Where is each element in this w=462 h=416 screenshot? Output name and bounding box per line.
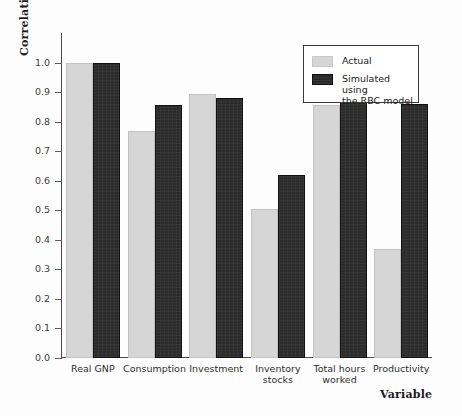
x-axis-title: Variable xyxy=(380,388,432,401)
legend-label-actual: Actual xyxy=(342,55,372,66)
y-tick-mark xyxy=(55,151,62,152)
bar-group xyxy=(128,33,182,358)
y-tick-label: 0.1 xyxy=(24,322,50,333)
y-tick-mark xyxy=(55,63,62,64)
y-tick-mark xyxy=(55,328,62,329)
y-tick-label: 0.3 xyxy=(24,263,50,274)
y-tick-label: 0.8 xyxy=(24,116,50,127)
chart-legend: Actual Simulated using the RBC model xyxy=(303,45,419,103)
y-tick-mark xyxy=(55,269,62,270)
y-tick-label: 0.6 xyxy=(24,175,50,186)
y-tick-mark xyxy=(55,181,62,182)
y-tick-label: 0.9 xyxy=(24,86,50,97)
y-tick-mark xyxy=(55,92,62,93)
legend-swatch-actual xyxy=(312,56,333,67)
y-tick-label: 0.7 xyxy=(24,145,50,156)
bar-chart-figure: Correlation 0.00.10.20.30.40.50.60.70.80… xyxy=(0,0,462,416)
y-tick-label: 0.0 xyxy=(24,352,50,363)
y-tick-label: 0.2 xyxy=(24,293,50,304)
y-tick-mark xyxy=(55,240,62,241)
legend-swatch-simulated xyxy=(312,74,333,85)
legend-entry-simulated: Simulated using the RBC model xyxy=(312,73,418,106)
bar xyxy=(251,209,278,358)
y-tick-mark xyxy=(55,122,62,123)
y-axis-title: Correlation xyxy=(18,0,31,56)
bar xyxy=(374,249,401,358)
bar xyxy=(216,98,243,358)
y-tick-mark xyxy=(55,299,62,300)
bar xyxy=(340,77,367,358)
y-tick-label: 0.4 xyxy=(24,234,50,245)
x-category-label: Productivity xyxy=(364,363,438,374)
bar xyxy=(278,175,305,358)
y-tick-mark xyxy=(55,210,62,211)
y-tick-label: 1.0 xyxy=(24,57,50,68)
bar xyxy=(313,105,340,358)
y-tick-mark xyxy=(55,358,62,359)
bar xyxy=(66,63,93,358)
bar xyxy=(128,131,155,359)
bar xyxy=(155,105,182,358)
bar xyxy=(189,94,216,358)
bar-group xyxy=(189,33,243,358)
bar xyxy=(401,104,428,358)
bar xyxy=(93,63,120,358)
bar-group xyxy=(251,33,305,358)
legend-entry-actual: Actual xyxy=(312,55,372,67)
legend-label-simulated: Simulated using the RBC model xyxy=(342,73,418,106)
y-tick-label: 0.5 xyxy=(24,204,50,215)
bar-group xyxy=(66,33,120,358)
